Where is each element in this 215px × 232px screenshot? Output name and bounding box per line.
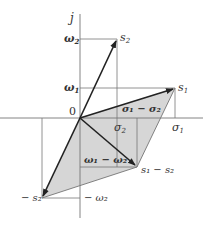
sigma1-label: σ1: [172, 121, 184, 135]
neg-s2-label: − s₂: [21, 192, 42, 203]
phasor-diagram: j 0 ω2 s2 ω1 s1 σ₁ − σ₂ σ2 σ1 ω₁ − ω₂ s₁…: [0, 0, 215, 232]
s-diff-label: s₁ − s₂: [141, 164, 174, 175]
s1-label: s1: [178, 81, 188, 95]
omega2-label: ω2: [64, 32, 79, 46]
vector-s2: [80, 41, 116, 118]
origin-label: 0: [69, 105, 76, 118]
j-axis-label: j: [67, 11, 74, 25]
omega1-label: ω1: [64, 81, 79, 95]
sigma-diff-label: σ₁ − σ₂: [122, 103, 161, 114]
neg-omega2-label: − ω₂: [84, 192, 108, 203]
s2-label: s2: [120, 31, 131, 45]
omega-diff-label: ω₁ − ω₂: [84, 154, 128, 165]
